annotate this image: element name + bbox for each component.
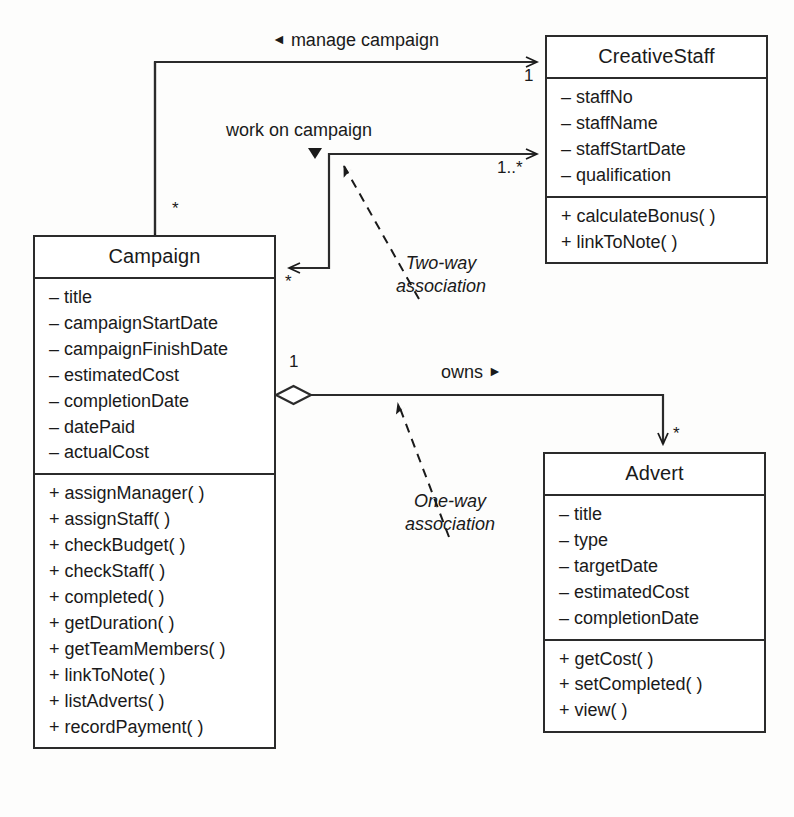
attribute-item: – staffNo (547, 85, 766, 111)
attribute-item: – qualification (547, 163, 766, 189)
association-label-owns: owns ► (441, 362, 502, 383)
attribute-item: – datePaid (35, 415, 274, 441)
class-name-campaign: Campaign (35, 237, 274, 279)
operation-item: + getCost( ) (545, 647, 764, 673)
operation-item: + recordPayment( ) (35, 715, 274, 741)
operation-item: + view( ) (545, 698, 764, 724)
class-box-creative-staff[interactable]: CreativeStaff – staffNo – staffName – st… (545, 35, 768, 264)
attribute-item: – campaignFinishDate (35, 337, 274, 363)
association-label-text: manage campaign (291, 30, 439, 50)
edge-owns (276, 386, 663, 444)
operations-compartment-creative-staff: + calculateBonus( ) + linkToNote( ) (547, 198, 766, 263)
edge-manage-campaign (155, 62, 537, 235)
association-label-text: work on campaign (226, 120, 372, 140)
class-name-advert: Advert (545, 454, 764, 496)
attribute-item: – estimatedCost (545, 580, 764, 606)
attribute-item: – targetDate (545, 554, 764, 580)
operation-item: + linkToNote( ) (35, 663, 274, 689)
annotation-line: association (385, 513, 515, 536)
class-box-campaign[interactable]: Campaign – title – campaignStartDate – c… (33, 235, 276, 749)
attribute-item: – campaignStartDate (35, 311, 274, 337)
operation-item: + assignStaff( ) (35, 507, 274, 533)
operation-item: + checkStaff( ) (35, 559, 274, 585)
attribute-item: – completionDate (35, 389, 274, 415)
class-name-creative-staff: CreativeStaff (547, 37, 766, 79)
attributes-compartment-campaign: – title – campaignStartDate – campaignFi… (35, 279, 274, 475)
multiplicity-manage-campaign-target: 1 (524, 66, 533, 86)
attribute-item: – estimatedCost (35, 363, 274, 389)
attribute-item: – staffStartDate (547, 137, 766, 163)
attributes-compartment-creative-staff: – staffNo – staffName – staffStartDate –… (547, 79, 766, 198)
annotation-line: One-way (385, 490, 515, 513)
direction-marker-icon-work-on-campaign (308, 148, 322, 159)
attribute-item: – actualCost (35, 440, 274, 466)
operation-item: + listAdverts( ) (35, 689, 274, 715)
operation-item: + calculateBonus( ) (547, 204, 766, 230)
association-label-work-on-campaign: work on campaign (226, 120, 372, 141)
class-box-advert[interactable]: Advert – title – type – targetDate – est… (543, 452, 766, 733)
operations-compartment-advert: + getCost( ) + setCompleted( ) + view( ) (545, 641, 764, 732)
annotation-line: Two-way (376, 252, 506, 275)
association-label-manage-campaign: ◄ manage campaign (272, 30, 439, 51)
operation-item: + linkToNote( ) (547, 230, 766, 256)
direction-marker-icon: ► (488, 363, 502, 379)
uml-diagram-canvas: CreativeStaff – staffNo – staffName – st… (0, 0, 794, 817)
multiplicity-owns-source: 1 (289, 352, 298, 372)
attributes-compartment-advert: – title – type – targetDate – estimatedC… (545, 496, 764, 641)
direction-marker-icon: ◄ (272, 31, 286, 47)
operation-item: + getTeamMembers( ) (35, 637, 274, 663)
attribute-item: – completionDate (545, 606, 764, 632)
annotation-line: association (376, 275, 506, 298)
attribute-item: – staffName (547, 111, 766, 137)
annotation-two-way-association: Two-way association (376, 252, 506, 299)
multiplicity-work-on-campaign-source: * (285, 272, 292, 292)
aggregation-diamond (276, 386, 311, 404)
attribute-item: – type (545, 528, 764, 554)
attribute-item: – title (545, 502, 764, 528)
attribute-item: – title (35, 285, 274, 311)
operation-item: + checkBudget( ) (35, 533, 274, 559)
operation-item: + completed( ) (35, 585, 274, 611)
operation-item: + setCompleted( ) (545, 672, 764, 698)
multiplicity-owns-target: * (673, 424, 680, 444)
operation-item: + getDuration( ) (35, 611, 274, 637)
multiplicity-manage-campaign-source: * (172, 199, 179, 219)
annotation-one-way-association: One-way association (385, 490, 515, 537)
operations-compartment-campaign: + assignManager( ) + assignStaff( ) + ch… (35, 475, 274, 747)
association-label-text: owns (441, 362, 483, 382)
operation-item: + assignManager( ) (35, 481, 274, 507)
multiplicity-work-on-campaign-target: 1..* (497, 158, 523, 178)
